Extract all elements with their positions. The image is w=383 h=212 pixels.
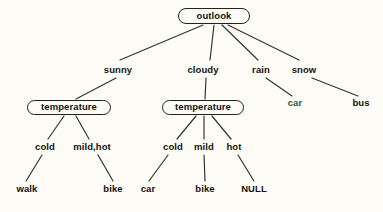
leaf-bike-right: bike (195, 184, 214, 194)
tree-edge (76, 78, 116, 99)
tree-edge (205, 78, 206, 99)
tree-edge (312, 78, 358, 96)
tree-edge (228, 25, 299, 60)
edge-label-hot-right: hot (226, 142, 241, 152)
leaf-walk: walk (17, 184, 38, 194)
edge-label-cold-right: cold (163, 142, 183, 152)
leaf-car-right: car (141, 184, 156, 194)
tree-edge (120, 25, 203, 60)
tree-edge (48, 116, 64, 139)
leaf-car-rain: car (288, 98, 303, 108)
edge-label-mildhot-left: mild,hot (73, 142, 111, 152)
tree-edge (210, 25, 214, 60)
edge-label-snow: snow (292, 65, 317, 75)
tree-edge (212, 116, 231, 139)
node-outlook-label: outlook (197, 11, 232, 21)
tree-edge (266, 78, 292, 96)
node-temperature-right[interactable]: temperature (162, 100, 244, 115)
edge-label-cold-left: cold (35, 142, 55, 152)
edge-label-rain: rain (252, 65, 270, 75)
tree-edge (26, 155, 42, 181)
tree-edge (76, 116, 89, 139)
edge-label-sunny: sunny (104, 65, 132, 75)
leaf-bike-left: bike (103, 184, 122, 194)
decision-tree-diagram: outlook temperature temperature sunny cl… (0, 0, 383, 212)
tree-edge (149, 155, 168, 181)
node-temperature-left[interactable]: temperature (27, 100, 111, 115)
tree-edge (98, 155, 113, 181)
leaf-null: NULL (241, 184, 267, 194)
edge-label-mild-right: mild (194, 142, 214, 152)
node-temperature-right-label: temperature (175, 102, 231, 112)
node-outlook[interactable]: outlook (178, 8, 250, 24)
tree-edge (238, 155, 254, 181)
tree-edge (204, 155, 205, 181)
node-temperature-left-label: temperature (41, 102, 97, 112)
tree-edge (177, 116, 196, 139)
leaf-bus-snow: bus (352, 98, 369, 108)
edge-label-cloudy: cloudy (187, 65, 218, 75)
